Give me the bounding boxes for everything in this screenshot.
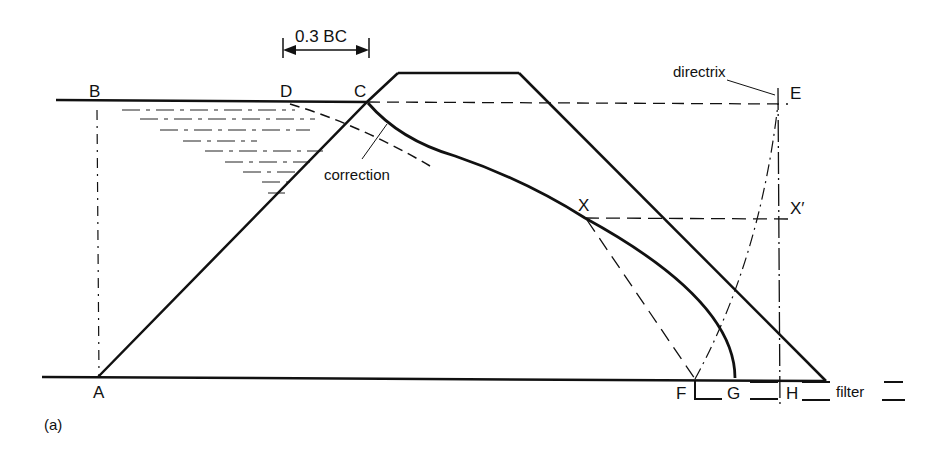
phreatic-line [368,103,735,378]
label-X: X [578,196,589,215]
label-B: B [89,82,100,101]
label-G: G [727,384,740,403]
filter-label: filter [836,383,864,400]
directrix-label: directrix [673,63,726,80]
basic-parabola-dashed [290,104,430,166]
label-E: E [790,84,801,103]
directrix-line [778,88,780,408]
x-f-dashed-line [587,220,695,379]
dimension-label: 0.3 BC [295,27,347,46]
water-hatching [122,110,323,193]
label-D: D [280,82,292,101]
dam-seepage-diagram: 0.3 BC B D C E directrix correction X X′… [0,0,950,451]
label-X-prime: X′ [790,199,805,218]
correction-label: correction [324,166,390,183]
panel-label: (a) [44,416,62,433]
ground-line [42,377,826,381]
f-e-construction-arc [695,104,778,379]
label-A: A [93,383,105,402]
directrix-leader [727,80,775,95]
c-e-dashed-line [368,102,788,104]
b-a-vertical-line [97,110,99,377]
water-surface-line [56,100,368,102]
label-H: H [786,384,798,403]
label-F: F [676,384,686,403]
x-xprime-dashed-line [585,218,790,219]
label-C: C [354,82,366,101]
dam-downstream-slope [519,73,826,381]
